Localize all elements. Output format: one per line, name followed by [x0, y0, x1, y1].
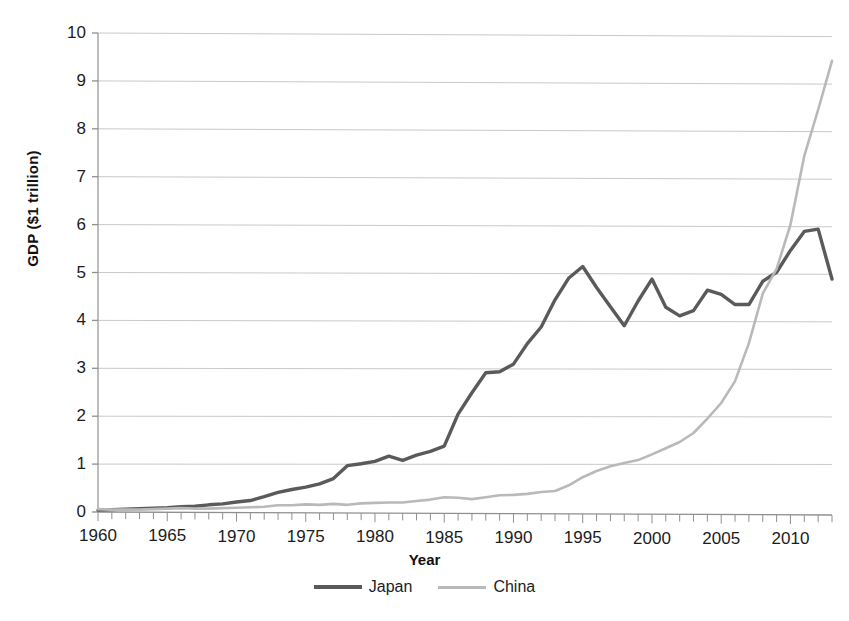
gridline-y-2	[98, 416, 832, 417]
gridline-y-3	[98, 368, 832, 369]
x-tick-label-1965: 1965	[132, 527, 202, 544]
legend-label-japan: Japan	[369, 578, 413, 596]
x-tick-label-1990: 1990	[478, 529, 548, 546]
legend-swatch-japan	[314, 585, 362, 589]
y-tick-label-10: 10	[40, 24, 86, 41]
x-tick-label-1960: 1960	[63, 527, 133, 544]
y-tick-label-5: 5	[40, 264, 86, 281]
legend-label-china: China	[493, 578, 535, 596]
legend-item-china[interactable]: China	[438, 578, 535, 596]
x-tick-label-2010: 2010	[755, 530, 825, 547]
y-tick-label-6: 6	[40, 216, 86, 233]
y-tick-label-4: 4	[40, 311, 86, 328]
gridline-y-10	[98, 33, 832, 37]
gridline-y-6	[98, 225, 832, 227]
y-tick-label-9: 9	[40, 72, 86, 89]
y-axis-label: GDP ($1 trillion)	[24, 119, 41, 299]
y-tick-label-1: 1	[40, 455, 86, 472]
x-axis-label: Year	[0, 551, 849, 568]
y-tick-label-2: 2	[40, 407, 86, 424]
y-tick-label-8: 8	[40, 120, 86, 137]
x-tick-label-1980: 1980	[340, 528, 410, 545]
x-tick-label-1975: 1975	[271, 528, 341, 545]
x-tick-label-1985: 1985	[409, 529, 479, 546]
x-axis-line	[98, 512, 832, 515]
y-tick-label-0: 0	[40, 503, 86, 520]
series-line-china	[98, 61, 832, 510]
y-tick-label-3: 3	[40, 359, 86, 376]
x-tick-label-1995: 1995	[548, 529, 618, 546]
x-tick-label-2000: 2000	[617, 530, 687, 547]
legend-swatch-china	[438, 586, 486, 589]
x-tick-label-2005: 2005	[686, 530, 756, 547]
chart-legend: Japan China	[0, 578, 849, 596]
gridline-y-4	[98, 320, 832, 321]
legend-item-japan[interactable]: Japan	[314, 578, 413, 596]
x-tick-label-1970: 1970	[201, 528, 271, 545]
gridline-y-7	[98, 177, 832, 180]
gridline-y-8	[98, 129, 832, 132]
data-series	[98, 61, 832, 510]
gridline-y-5	[98, 273, 832, 275]
gdp-line-chart: GDP ($1 trillion) 012345678910 196019651…	[0, 0, 849, 621]
y-tick-label-7: 7	[40, 168, 86, 185]
gridline-y-9	[98, 81, 832, 84]
